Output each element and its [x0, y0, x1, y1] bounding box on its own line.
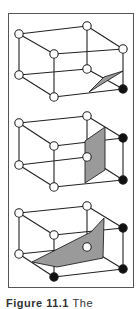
cube-edge	[54, 49, 123, 54]
cube-edge	[19, 123, 54, 146]
open-vertex-icon	[83, 65, 91, 73]
cube-edge	[19, 165, 54, 187]
open-vertex-icon	[83, 153, 91, 161]
open-vertex-icon	[15, 250, 23, 258]
filled-vertex-icon	[50, 273, 58, 281]
case-3-three-vertices	[15, 202, 127, 281]
open-vertex-icon	[15, 209, 23, 217]
open-vertex-icon	[15, 71, 23, 79]
open-vertex-icon	[15, 161, 23, 169]
open-vertex-icon	[83, 22, 91, 30]
cube-edge	[19, 213, 54, 235]
open-vertex-icon	[83, 243, 91, 251]
cube-edge	[19, 116, 87, 123]
isosurface-polygon	[32, 218, 104, 267]
cube-edge	[19, 206, 87, 213]
open-vertex-icon	[15, 30, 23, 38]
case-1-one-vertex	[15, 22, 127, 101]
open-vertex-icon	[119, 45, 127, 53]
open-vertex-icon	[83, 112, 91, 120]
cube-edge	[54, 89, 123, 97]
cube-edge	[19, 75, 54, 97]
cube-edge	[19, 26, 87, 34]
cube-edge	[87, 26, 123, 49]
filled-vertex-icon	[119, 85, 127, 93]
isosurface-polygon	[89, 71, 123, 92]
filled-vertex-icon	[119, 176, 127, 184]
open-vertex-icon	[15, 119, 23, 127]
open-vertex-icon	[83, 202, 91, 210]
cube-edge	[54, 269, 123, 277]
open-vertex-icon	[50, 183, 58, 191]
figure-caption: Figure 11.1 The	[6, 297, 93, 309]
caption-text: The	[73, 297, 93, 309]
open-vertex-icon	[50, 231, 58, 239]
open-vertex-icon	[50, 142, 58, 150]
filled-vertex-icon	[119, 224, 127, 232]
case-2-two-vertices	[15, 112, 127, 191]
cube-edge	[87, 206, 123, 228]
cube-edge	[19, 157, 87, 165]
open-vertex-icon	[50, 50, 58, 58]
cube-edge	[19, 34, 54, 54]
caption-label: Figure 11.1	[6, 297, 69, 309]
cube-edge	[19, 69, 87, 75]
open-vertex-icon	[50, 93, 58, 101]
filled-vertex-icon	[119, 265, 127, 273]
filled-vertex-icon	[119, 134, 127, 142]
